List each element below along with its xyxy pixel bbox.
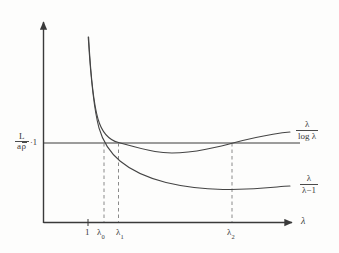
denominator-rho-symbol: ρ [22, 142, 27, 151]
curve-lambda-over-lambda-minus-one [88, 37, 290, 189]
curve-label-lambda-over-log-lambda: λ log λ [296, 120, 318, 142]
x-tick-label-lambda1: λ1 [116, 228, 124, 239]
y-axis-label: L aρ ·1 [15, 132, 37, 152]
x-tick-label-lambda0: λ0 [97, 228, 105, 239]
curve-label-numerator: λ [296, 120, 318, 130]
tick-label-text: 1 [85, 227, 90, 237]
tick-label-subscript: 0 [101, 233, 104, 240]
plot-canvas [0, 0, 339, 253]
x-tick-label-1: 1 [85, 228, 90, 237]
curve-label-denominator: log λ [296, 132, 318, 142]
tick-label-subscript: 2 [231, 233, 234, 240]
y-axis-label-suffix: ·1 [30, 137, 37, 147]
curve-label-lambda-over-lambda-minus-one: λ λ−1 [300, 174, 318, 196]
tick-label-subscript: 1 [120, 233, 123, 240]
y-axis-label-numerator: L [15, 132, 29, 141]
curve-lambda-over-log-lambda [89, 37, 290, 153]
curve-label-numerator: λ [300, 174, 318, 184]
x-axis-name-text: λ [301, 215, 305, 226]
y-axis-label-fraction: L aρ [15, 132, 29, 152]
figure-container: L aρ ·1 λ log λ λ λ−1 1 λ0 λ1 λ2 λ [0, 0, 339, 253]
x-axis-name: λ [301, 216, 305, 226]
y-axis-label-denominator: aρ [15, 142, 29, 151]
curve-label-denominator: λ−1 [300, 186, 318, 196]
x-tick-label-lambda2: λ2 [227, 228, 235, 239]
